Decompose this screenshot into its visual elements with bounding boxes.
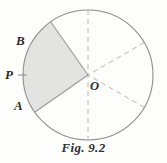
point-label-b: B <box>16 34 25 47</box>
figure-caption: Fig. 9.2 <box>0 140 167 156</box>
point-label-a: A <box>14 99 23 112</box>
figure-9-2: B P A O Fig. 9.2 <box>0 0 167 163</box>
centre-label-o: O <box>90 80 99 93</box>
circle-diagram-svg <box>0 0 167 163</box>
point-label-p: P <box>5 68 13 81</box>
upper-right-diameter-dashed <box>88 43 144 76</box>
shaded-sector-aob <box>23 22 88 113</box>
